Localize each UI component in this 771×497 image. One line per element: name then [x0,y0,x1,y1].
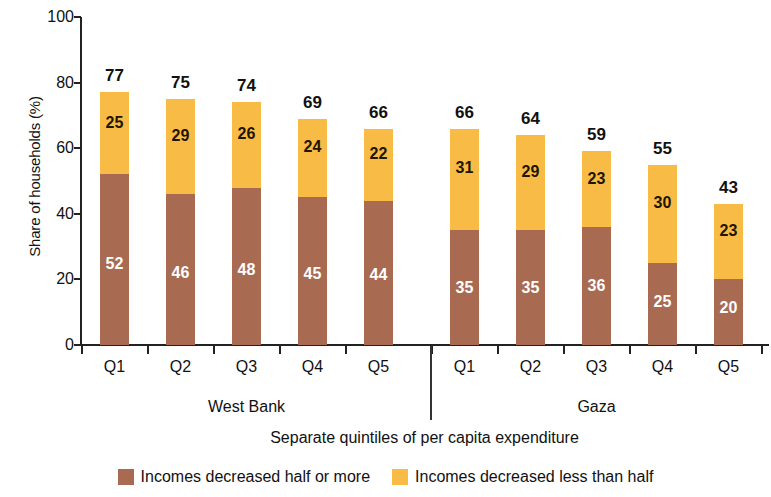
x-axis-tick-mark [695,346,697,354]
bar-value-label-top: 29 [166,127,195,145]
stacked-bar-chart: Share of households (%) 100806040200 522… [0,0,771,497]
bar-value-label-top: 26 [232,125,261,143]
x-axis-tick-mark [81,346,83,354]
bar-value-label-bottom: 35 [516,279,545,297]
bar-value-label-top: 29 [516,163,545,181]
bar: 362359 [582,0,611,345]
bar-value-label-top: 23 [714,222,743,240]
bar-segment-decreased-less-than-half [166,99,195,194]
bar-segment-decreased-less-than-half [714,204,743,279]
bar: 202343 [714,0,743,345]
bar-total-label: 64 [516,109,545,129]
group-label: Gaza [497,398,697,416]
bar: 452469 [298,0,327,345]
bars-layer: 5225774629754826744524694422663531663529… [0,0,771,345]
bar-segment-decreased-less-than-half [232,102,261,187]
bar-segment-decreased-less-than-half [450,129,479,231]
x-axis-tick-label: Q4 [293,358,333,376]
bar-value-label-top: 24 [298,138,327,156]
x-axis-tick-mark [279,346,281,354]
x-axis-tick-label: Q3 [227,358,267,376]
bar-total-label: 55 [648,139,677,159]
group-divider-line [430,346,432,420]
legend-label: Incomes decreased less than half [415,468,653,486]
x-axis-tick-mark [345,346,347,354]
bar: 253055 [648,0,677,345]
bar-total-label: 74 [232,76,261,96]
legend-item: Incomes decreased half or more [118,468,370,486]
bar-value-label-bottom: 52 [100,255,129,273]
bar-segment-decreased-less-than-half [648,165,677,263]
bar-total-label: 75 [166,73,195,93]
bar-value-label-bottom: 46 [166,264,195,282]
legend-swatch-icon [392,469,408,485]
legend-swatch-icon [118,469,134,485]
x-axis-tick-mark [147,346,149,354]
x-axis-tick-label: Q2 [161,358,201,376]
x-axis-tick-label: Q1 [445,358,485,376]
bar-value-label-top: 30 [648,194,677,212]
bar: 482674 [232,0,261,345]
x-axis-tick-mark [629,346,631,354]
bar-total-label: 66 [450,103,479,123]
legend-item: Incomes decreased less than half [392,468,653,486]
group-label: West Bank [147,398,347,416]
bar-value-label-bottom: 35 [450,279,479,297]
bar-value-label-bottom: 45 [298,265,327,283]
bar: 353166 [450,0,479,345]
bar-value-label-bottom: 20 [714,299,743,317]
bar-segment-decreased-less-than-half [516,135,545,230]
bar-segment-decreased-less-than-half [100,92,129,174]
bar: 522577 [100,0,129,345]
x-axis-tick-label: Q3 [577,358,617,376]
bar-segment-decreased-less-than-half [364,129,393,201]
legend-label: Incomes decreased half or more [141,468,370,486]
bar-total-label: 43 [714,178,743,198]
x-axis-tick-mark [761,346,763,354]
x-axis-tick-label: Q4 [643,358,683,376]
x-axis-tick-label: Q5 [709,358,749,376]
bar: 442266 [364,0,393,345]
bar-value-label-bottom: 44 [364,266,393,284]
bar: 352964 [516,0,545,345]
bar-value-label-bottom: 36 [582,277,611,295]
x-axis-tick-mark [563,346,565,354]
x-axis-title: Separate quintiles of per capita expendi… [80,429,769,447]
x-axis-tick-mark [213,346,215,354]
bar-value-label-top: 22 [364,145,393,163]
bar-value-label-top: 31 [450,159,479,177]
x-axis-tick-label: Q2 [511,358,551,376]
bar-total-label: 66 [364,103,393,123]
bar-value-label-top: 25 [100,114,129,132]
x-axis-tick-label: Q1 [95,358,135,376]
bar-value-label-bottom: 48 [232,261,261,279]
bar-total-label: 77 [100,66,129,86]
bar-segment-decreased-less-than-half [298,119,327,198]
bar: 462975 [166,0,195,345]
bar-segment-decreased-less-than-half [582,151,611,226]
x-axis-tick-label: Q5 [359,358,399,376]
bar-total-label: 69 [298,93,327,113]
bar-value-label-top: 23 [582,170,611,188]
bar-total-label: 59 [582,125,611,145]
bar-value-label-bottom: 25 [648,293,677,311]
x-axis-tick-mark [497,346,499,354]
chart-legend: Incomes decreased half or moreIncomes de… [0,468,771,486]
